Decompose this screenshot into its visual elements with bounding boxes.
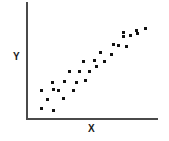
data-point — [82, 60, 85, 63]
y-axis-line — [26, 2, 28, 120]
data-point — [84, 79, 87, 82]
data-point — [103, 60, 106, 63]
x-axis-label: X — [88, 124, 95, 134]
x-axis-line — [26, 118, 158, 120]
data-point — [75, 81, 78, 84]
data-point — [93, 59, 96, 62]
data-point — [88, 70, 91, 73]
data-point — [63, 80, 66, 83]
data-point — [99, 51, 102, 54]
data-point — [117, 44, 120, 47]
data-point — [112, 43, 115, 46]
scatter-plot-figure: Y X — [0, 0, 169, 141]
data-point — [40, 89, 43, 92]
y-axis-label: Y — [13, 52, 20, 62]
data-point — [62, 97, 65, 100]
plot-area: Y X — [0, 0, 169, 141]
data-point — [122, 35, 125, 38]
data-point — [135, 29, 138, 32]
data-point — [57, 89, 60, 92]
data-point — [144, 27, 147, 30]
data-point — [51, 81, 54, 84]
data-point — [72, 89, 75, 92]
data-point — [68, 70, 71, 73]
data-point — [95, 65, 98, 68]
data-point — [40, 107, 43, 110]
data-point — [125, 45, 128, 48]
data-point — [110, 53, 113, 56]
data-point — [129, 34, 132, 37]
data-point — [52, 109, 55, 112]
data-point — [46, 98, 49, 101]
data-point — [78, 70, 81, 73]
data-point — [136, 32, 139, 35]
data-point — [122, 31, 125, 34]
data-point — [52, 88, 55, 91]
